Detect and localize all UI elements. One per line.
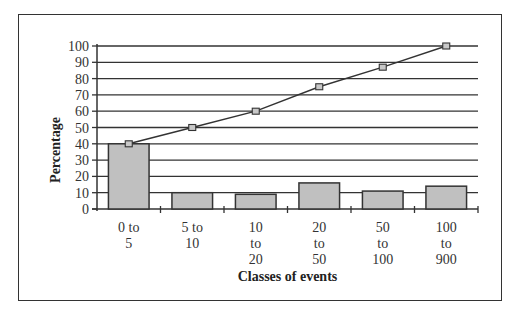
x-tick-label: 100 — [372, 252, 393, 267]
y-tick-label: 90 — [75, 55, 89, 70]
x-tick-label: 10 — [185, 236, 199, 251]
x-tick-label: to — [377, 236, 388, 251]
x-tick-label: to — [441, 236, 452, 251]
x-tick-label: 20 — [312, 220, 326, 235]
y-tick-label: 30 — [75, 153, 89, 168]
square-marker-icon — [252, 108, 259, 114]
bar — [172, 193, 213, 209]
bar — [108, 144, 149, 209]
x-tick-label: 5 to — [182, 220, 203, 235]
y-tick-label: 10 — [75, 186, 89, 201]
bar — [235, 194, 276, 209]
x-tick-label: to — [314, 236, 325, 251]
square-marker-icon — [316, 84, 323, 90]
y-tick-label: 70 — [75, 88, 89, 103]
x-tick-label: 0 to — [118, 220, 139, 235]
y-tick-label: 100 — [68, 39, 89, 54]
x-tick-label: 20 — [249, 252, 263, 267]
y-tick-label: 80 — [75, 72, 89, 87]
bar — [299, 183, 340, 209]
x-tick-label: 50 — [376, 220, 390, 235]
y-axis-title: Percentage — [48, 117, 63, 183]
x-tick-label: 100 — [436, 220, 457, 235]
bar — [362, 191, 403, 209]
y-tick-label: 40 — [75, 137, 89, 152]
y-tick-label: 20 — [75, 169, 89, 184]
combo-chart: 01020304050607080901000 to55 to1010to202… — [0, 0, 517, 319]
square-marker-icon — [125, 141, 132, 147]
square-marker-icon — [443, 43, 450, 49]
square-marker-icon — [379, 64, 386, 70]
x-tick-label: 900 — [436, 252, 457, 267]
x-tick-label: to — [250, 236, 261, 251]
bar — [426, 186, 467, 209]
y-tick-label: 60 — [75, 104, 89, 119]
square-marker-icon — [189, 125, 196, 131]
y-tick-label: 50 — [75, 121, 89, 136]
x-tick-label: 10 — [249, 220, 263, 235]
x-tick-label: 50 — [312, 252, 326, 267]
y-tick-label: 0 — [82, 202, 89, 217]
x-tick-label: 5 — [125, 236, 132, 251]
x-axis-title: Classes of events — [238, 269, 338, 284]
